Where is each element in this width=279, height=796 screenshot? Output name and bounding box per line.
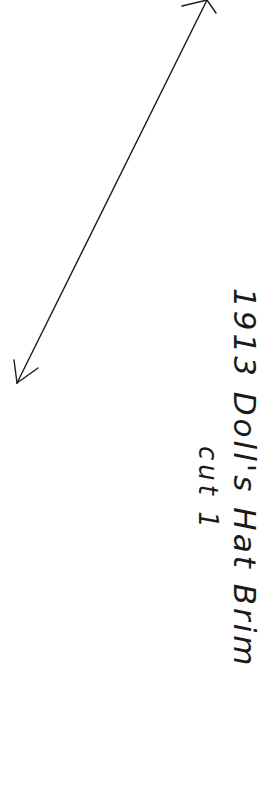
pattern-piece-sheet: 1913 Doll's Hat Brim cut 1 <box>0 0 279 796</box>
pattern-title: 1913 Doll's Hat Brim <box>228 288 262 668</box>
cut-instruction: cut 1 <box>194 446 222 532</box>
